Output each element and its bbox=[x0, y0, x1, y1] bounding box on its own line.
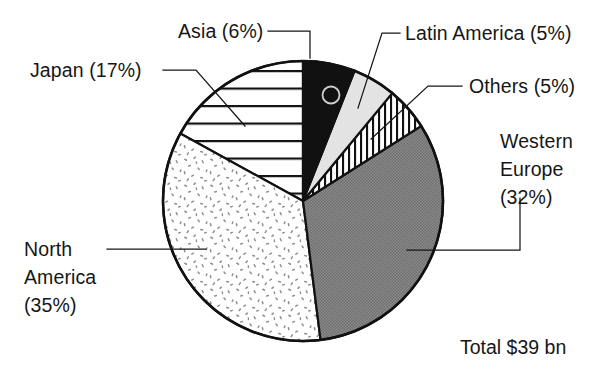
label-north-america-line3: (35%) bbox=[24, 294, 77, 316]
label-western-europe-line1: Western bbox=[500, 130, 573, 152]
pie-chart-figure: Asia (6%) Japan (17%) Latin America (5%)… bbox=[0, 0, 607, 381]
label-north-america-line1: North bbox=[24, 238, 72, 260]
pie-slices bbox=[163, 61, 443, 341]
leader-line-asia bbox=[268, 31, 310, 58]
label-others: Others (5%) bbox=[469, 75, 575, 97]
label-latin-america: Latin America (5%) bbox=[405, 22, 572, 44]
pie-chart-canvas: Asia (6%) Japan (17%) Latin America (5%)… bbox=[0, 0, 607, 381]
label-north-america-line2: America bbox=[24, 266, 96, 288]
total-value-label: Total $39 bn bbox=[460, 336, 566, 358]
label-asia: Asia (6%) bbox=[178, 20, 263, 42]
label-western-europe-line2: Europe bbox=[500, 158, 563, 180]
label-japan: Japan (17%) bbox=[30, 59, 142, 81]
label-western-europe-line3: (32%) bbox=[500, 186, 553, 208]
